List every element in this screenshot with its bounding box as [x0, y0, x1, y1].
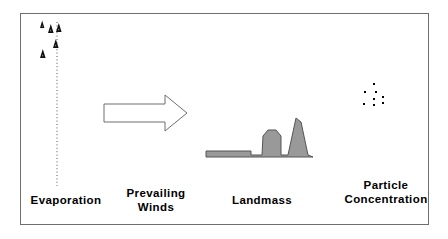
label-landmass: Landmass: [212, 193, 312, 207]
label-particle-concentration: Particle Concentration: [336, 178, 436, 206]
evaporation-particle-marker: [40, 49, 46, 58]
particle-dot: [382, 96, 384, 98]
evaporation-particle-marker: [48, 24, 54, 33]
particle-dot: [364, 91, 366, 93]
particle-dot: [363, 103, 365, 105]
particle-dot: [373, 83, 375, 85]
diagram-root: Evaporation Prevailing Winds Landmass Pa…: [0, 0, 448, 239]
label-prevailing-winds: Prevailing Winds: [104, 186, 208, 214]
evaporation-particle-marker: [53, 39, 59, 48]
prevailing-winds-arrow-icon: [104, 95, 187, 131]
evaporation-particle-marker: [56, 23, 62, 32]
particle-dot: [375, 91, 377, 93]
particle-concentration-dots: [363, 83, 384, 106]
particle-dot: [373, 104, 375, 106]
label-evaporation: Evaporation: [14, 193, 118, 207]
evaporation-particle-markers: [40, 21, 62, 59]
landmass-shape: [206, 118, 313, 157]
evaporation-particle-marker: [40, 21, 44, 29]
particle-dot: [382, 102, 384, 104]
particle-dot: [373, 98, 375, 100]
